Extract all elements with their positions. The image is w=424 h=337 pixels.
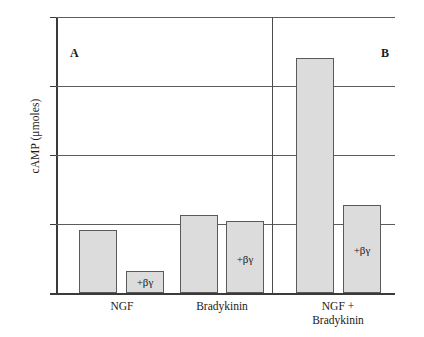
chart-figure: cAMP (μmoles) 80 60 40 20 0 +βγ +βγ <box>0 0 424 337</box>
bar-ngf-betagamma: +βγ <box>126 271 164 293</box>
y-tick-mark-20 <box>50 224 56 225</box>
y-tick-mark-80 <box>50 17 56 18</box>
x-category-label-ngf-bradykinin: NGF + Bradykinin <box>284 300 392 327</box>
bar-bradykinin-betagamma: +βγ <box>226 221 264 293</box>
gridline-80 <box>56 17 395 18</box>
y-tick-mark-60 <box>50 86 56 87</box>
x-category-label-ngf: NGF <box>68 300 176 314</box>
panel-label-a: A <box>70 46 79 61</box>
panel-divider-line <box>272 17 273 293</box>
bar-label-ngf-betagamma: +βγ <box>127 276 163 288</box>
y-axis-title: cAMP (μmoles) <box>29 56 41 216</box>
plot-area: +βγ +βγ +βγ A B NGF Bradykinin NGF + Bra… <box>56 17 395 293</box>
bar-ngf-control <box>79 230 117 293</box>
y-tick-mark-40 <box>50 155 56 156</box>
panel-label-b: B <box>381 46 389 61</box>
gridline-40 <box>56 155 395 156</box>
x-category-label-bradykinin: Bradykinin <box>168 300 276 314</box>
bar-ngf-bradykinin-control <box>296 58 334 293</box>
bar-label-ngf-bradykinin-betagamma: +βγ <box>344 244 380 256</box>
x-axis-baseline <box>50 293 395 295</box>
bar-ngf-bradykinin-betagamma: +βγ <box>343 205 381 293</box>
gridline-60 <box>56 86 395 87</box>
bar-label-bradykinin-betagamma: +βγ <box>227 253 263 265</box>
bar-bradykinin-control <box>180 215 218 293</box>
